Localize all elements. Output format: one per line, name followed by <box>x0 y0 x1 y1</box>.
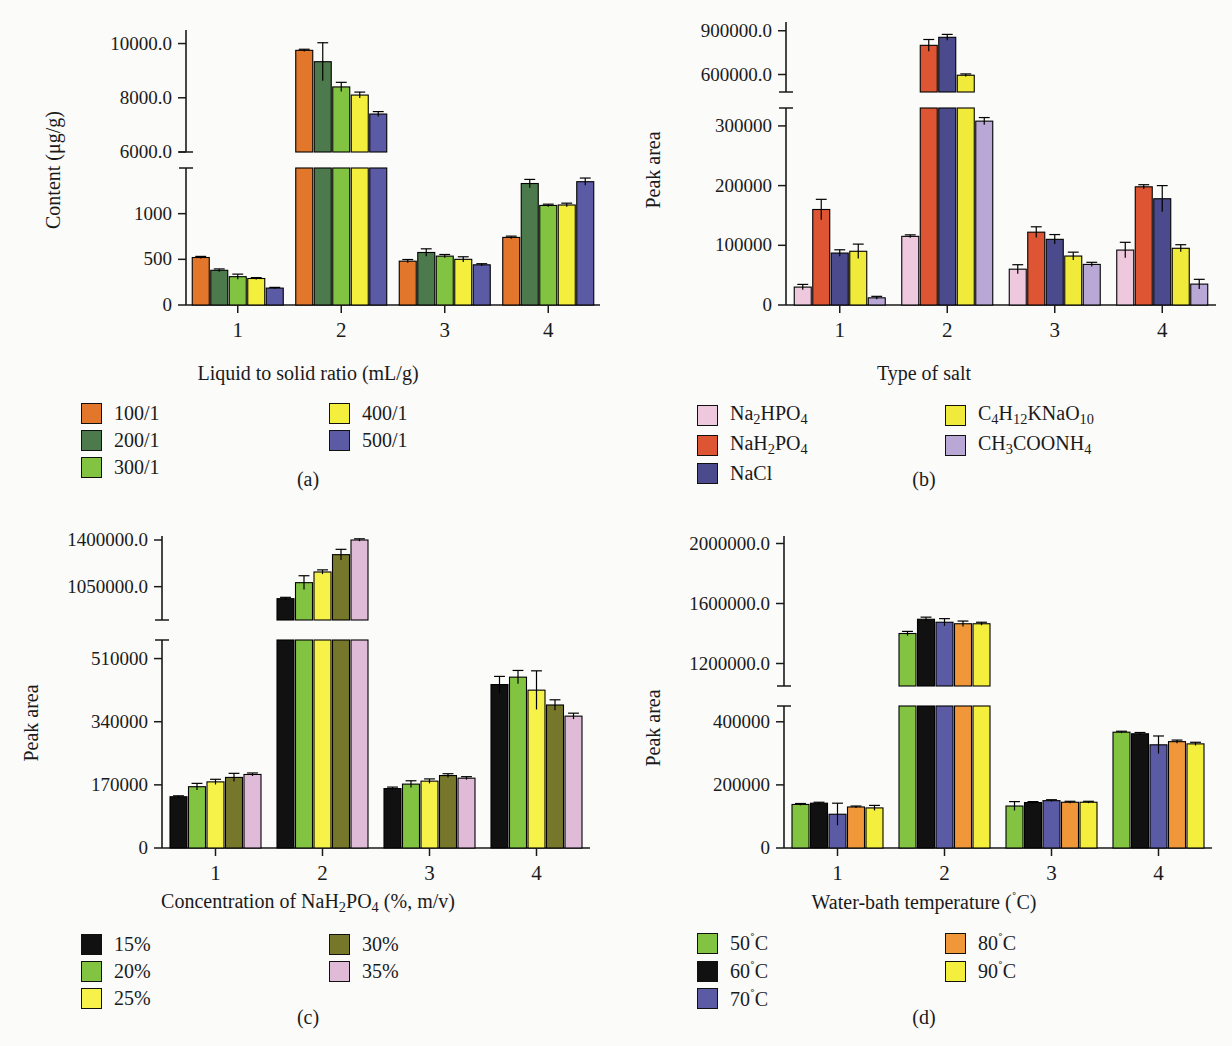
bar-upper-segment <box>277 599 294 620</box>
panel-c-caption: (c) <box>0 1006 616 1029</box>
panel-b-caption: (b) <box>616 468 1232 491</box>
legend-swatch <box>329 934 350 955</box>
legend-label: C4H12KNaO10 <box>978 403 1094 427</box>
bar <box>565 716 582 848</box>
x-tick-label: 3 <box>1050 318 1061 342</box>
bar <box>521 184 538 305</box>
legend-item: 200/1 <box>81 430 305 451</box>
bar-upper-segment <box>957 75 974 92</box>
bar-lower-segment <box>314 640 331 848</box>
bar-upper-segment <box>936 622 953 686</box>
bar-lower-segment <box>918 706 935 848</box>
legend-label: 15% <box>114 934 151 955</box>
bar-upper-segment <box>918 619 935 686</box>
bar <box>1132 734 1149 848</box>
bar <box>558 205 575 305</box>
bar-lower-segment <box>370 168 387 305</box>
legend-item: 35% <box>329 961 553 982</box>
x-tick-label: 3 <box>424 861 435 885</box>
bar <box>384 789 401 848</box>
panel-b-xlabel: Type of salt <box>616 362 1232 385</box>
x-tick-label: 1 <box>832 861 843 885</box>
legend-swatch <box>945 933 966 954</box>
bar-lower-segment <box>296 168 313 305</box>
bar <box>510 677 527 848</box>
y-tick-label: 900000.0 <box>701 20 772 41</box>
bar <box>1028 232 1045 305</box>
bar-lower-segment <box>277 640 294 848</box>
x-tick-label: 2 <box>317 861 328 885</box>
bar <box>229 277 246 305</box>
legend-swatch <box>945 961 966 982</box>
bar-upper-segment <box>939 37 956 92</box>
bar <box>848 807 865 848</box>
bar <box>436 256 453 305</box>
legend-item: 80˚C <box>945 932 1169 954</box>
legend-swatch <box>945 435 966 456</box>
y-tick-label: 0 <box>763 294 773 315</box>
legend-swatch <box>697 933 718 954</box>
x-tick-label: 1 <box>835 318 846 342</box>
legend-swatch <box>697 961 718 982</box>
bar <box>248 279 265 305</box>
bar <box>503 237 520 305</box>
panel-d: 02000004000001200000.01600000.02000000.0… <box>616 508 1232 1046</box>
x-tick-label: 4 <box>531 861 542 885</box>
panel-a-xlabel: Liquid to solid ratio (mL/g) <box>0 362 616 385</box>
legend-item: CH3COONH4 <box>945 433 1169 457</box>
legend-label: 30% <box>362 934 399 955</box>
panel-c-plot: 01700003400005100001050000.01400000.0Pea… <box>0 508 616 888</box>
bar-lower-segment <box>899 706 916 848</box>
legend-swatch <box>329 961 350 982</box>
bar-lower-segment <box>957 108 974 305</box>
panel-a-legend: 100/1200/1300/1 400/1500/1 <box>0 403 616 478</box>
legend-swatch <box>945 405 966 426</box>
bar <box>1150 745 1167 848</box>
legend-swatch <box>81 403 102 424</box>
y-tick-label: 300000 <box>715 115 772 136</box>
x-tick-label: 2 <box>942 318 953 342</box>
panel-d-plot: 02000004000001200000.01600000.02000000.0… <box>616 508 1232 888</box>
bar-lower-segment <box>936 706 953 848</box>
bar <box>189 787 206 848</box>
panel-c-legend-col1: 15%20%25% <box>63 934 305 1009</box>
bar <box>421 781 438 848</box>
legend-label: 90˚C <box>978 960 1016 982</box>
bar-lower-segment <box>920 108 937 305</box>
bar <box>1065 256 1082 305</box>
legend-swatch <box>697 405 718 426</box>
x-tick-label: 2 <box>939 861 950 885</box>
legend-label: 60˚C <box>730 960 768 982</box>
bar-lower-segment <box>973 706 990 848</box>
bar <box>1154 199 1171 305</box>
y-tick-label: 1600000.0 <box>689 593 770 614</box>
legend-item: C4H12KNaO10 <box>945 403 1169 427</box>
bar <box>440 776 457 848</box>
bar <box>207 782 224 848</box>
y-tick-label: 0 <box>163 294 173 315</box>
x-tick-label: 4 <box>543 318 554 342</box>
legend-item: 50˚C <box>697 932 921 954</box>
legend-label: CH3COONH4 <box>978 433 1091 457</box>
bar-lower-segment <box>955 706 972 848</box>
legend-label: 200/1 <box>114 430 160 451</box>
x-tick-label: 3 <box>440 318 451 342</box>
bar-upper-segment <box>296 50 313 152</box>
x-tick-label: 1 <box>210 861 221 885</box>
panel-a-caption: (a) <box>0 468 616 491</box>
bar-upper-segment <box>333 555 350 620</box>
bar-lower-segment <box>296 640 313 848</box>
y-tick-label: 8000.0 <box>120 87 172 108</box>
y-tick-label: 1200000.0 <box>689 653 770 674</box>
y-axis-title: Peak area <box>642 131 664 208</box>
y-tick-label: 1050000.0 <box>67 576 148 597</box>
bar <box>170 797 187 848</box>
y-tick-label: 1400000.0 <box>67 529 148 550</box>
y-tick-label: 600000.0 <box>701 64 772 85</box>
legend-swatch <box>697 435 718 456</box>
bar <box>1187 744 1204 848</box>
legend-label: 35% <box>362 961 399 982</box>
legend-label: 50˚C <box>730 932 768 954</box>
x-tick-label: 3 <box>1046 861 1057 885</box>
y-tick-label: 0 <box>139 837 149 858</box>
